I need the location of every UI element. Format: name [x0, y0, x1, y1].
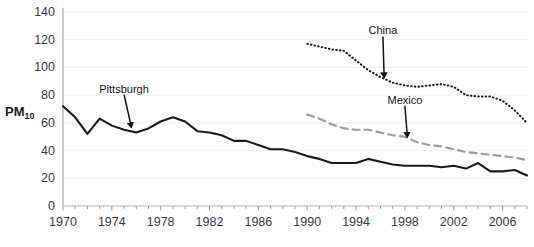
- series-line-pittsburgh: [63, 106, 527, 175]
- series-line-mexico: [307, 115, 527, 161]
- annotation-arrow-pittsburgh: [124, 95, 131, 127]
- annotation-arrows: [124, 36, 407, 136]
- x-axis-tick-marks: [63, 206, 527, 211]
- axis-lines: [63, 8, 527, 206]
- annotation-arrow-china: [383, 36, 384, 77]
- data-series-layer: [63, 44, 527, 176]
- series-line-china: [307, 44, 527, 123]
- plot-area: [0, 0, 534, 247]
- pm10-line-chart: PM10 020406080100120140 1970197419781982…: [0, 0, 534, 247]
- annotation-arrow-mexico: [405, 106, 407, 137]
- gridlines: [63, 12, 527, 178]
